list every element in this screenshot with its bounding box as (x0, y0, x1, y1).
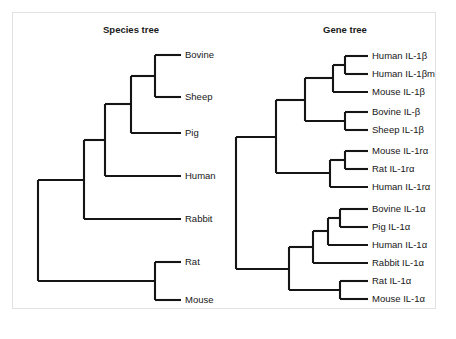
tip-label-gene_tree-3: Bovine IL-β (372, 106, 421, 117)
tip-label-gene_tree-6: Rat IL-1rα (372, 163, 415, 174)
tip-label-species_tree-4: Rabbit (185, 213, 213, 224)
tip-label-gene_tree-0: Human IL-1β (372, 50, 428, 61)
tip-label-species_tree-2: Pig (185, 127, 199, 138)
tree-panel-gene_tree: Gene treeHuman IL-1βHuman IL-1βmMouse IL… (236, 24, 435, 304)
tip-label-gene_tree-8: Bovine IL-1α (372, 203, 426, 214)
tree-panel-species_tree: Species treeBovineSheepPigHumanRabbitRat… (38, 24, 216, 305)
tip-label-species_tree-6: Mouse (185, 294, 214, 305)
tip-label-gene_tree-7: Human IL-1rα (372, 181, 431, 192)
tip-label-gene_tree-2: Mouse IL-1β (372, 86, 426, 97)
tip-label-gene_tree-5: Mouse IL-1rα (372, 145, 429, 156)
tip-label-species_tree-1: Sheep (185, 91, 212, 102)
tip-label-species_tree-3: Human (185, 170, 216, 181)
figure-canvas: Species treeBovineSheepPigHumanRabbitRat… (0, 0, 456, 339)
tip-label-gene_tree-1: Human IL-1βm (372, 68, 435, 79)
phylogenetic-trees-svg: Species treeBovineSheepPigHumanRabbitRat… (0, 0, 456, 339)
tip-label-species_tree-5: Rat (185, 256, 200, 267)
tip-label-gene_tree-13: Mouse IL-1α (372, 293, 426, 304)
panel-title-species_tree: Species tree (103, 24, 159, 35)
tip-label-gene_tree-4: Sheep IL-1β (372, 124, 424, 135)
tip-label-gene_tree-11: Rabbit IL-1α (372, 257, 424, 268)
tip-label-gene_tree-9: Pig IL-1α (372, 221, 411, 232)
tree-panels-group: Species treeBovineSheepPigHumanRabbitRat… (38, 24, 435, 305)
panel-title-gene_tree: Gene tree (323, 24, 367, 35)
tip-label-gene_tree-12: Rat IL-1α (372, 275, 412, 286)
tip-label-species_tree-0: Bovine (185, 49, 214, 60)
tip-label-gene_tree-10: Human IL-1α (372, 239, 428, 250)
